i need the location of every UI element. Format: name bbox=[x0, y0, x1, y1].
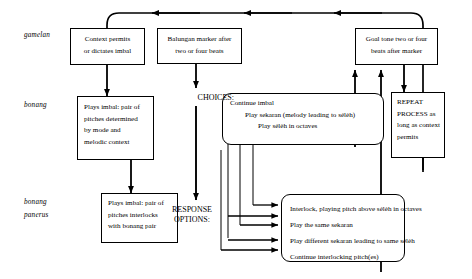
node-goal-tone: Goal tone two or four beats after marker bbox=[355, 28, 438, 65]
node-plays-imbal-bonang-line-3: by mode and bbox=[84, 125, 153, 137]
node-repeat-process-line-4: permits bbox=[397, 132, 444, 144]
node-response-options: Interlock, playing pitch above sélèh in … bbox=[281, 194, 405, 262]
node-balungan-marker-line-1: Balungan marker after bbox=[158, 34, 241, 46]
node-balungan-marker-line-2: two or four beats bbox=[158, 46, 241, 58]
node-balungan-marker: Balungan marker after two or four beats bbox=[157, 28, 242, 64]
node-repeat-process-line-3: long as context bbox=[397, 120, 444, 132]
node-plays-imbal-bonang-line-4: melodic context bbox=[84, 137, 153, 149]
node-continue-imbal-line-1: Continue imbal bbox=[223, 98, 383, 110]
node-context-permits-line-2: or dictates imbal bbox=[71, 46, 144, 58]
gamelan-imbal-flowchart: gamelan bonang bonang panerus bbox=[0, 0, 472, 279]
node-context-permits: Context permits or dictates imbal bbox=[70, 28, 145, 65]
node-repeat-process-line-1: REPEAT bbox=[397, 97, 444, 109]
node-continue-imbal-line-3: Play sélèh in octaves bbox=[223, 121, 383, 133]
label-response-options: RESPONSE OPTIONS: bbox=[150, 205, 234, 224]
node-response-option-2: Play the same sekaran bbox=[290, 217, 404, 233]
node-goal-tone-line-1: Goal tone two or four bbox=[356, 34, 437, 46]
node-response-option-3: Play different sekaran leading to same s… bbox=[290, 233, 404, 249]
node-plays-imbal-bonang-line-1: Plays imbal: pair of bbox=[84, 102, 153, 114]
label-choices: CHOICES: bbox=[158, 93, 234, 103]
node-repeat-process: REPEAT PROCESS as long as context permit… bbox=[391, 92, 445, 158]
node-plays-imbal-bonang-line-2: pitches determined bbox=[84, 114, 153, 126]
node-response-option-1: Interlock, playing pitch above sélèh in … bbox=[290, 201, 404, 217]
node-continue-imbal-line-2: Play sekaran (melody leading to sélèh) bbox=[223, 110, 383, 122]
node-goal-tone-line-2: beats after marker bbox=[356, 46, 437, 58]
node-repeat-process-line-2: PROCESS as bbox=[397, 109, 444, 121]
node-plays-imbal-bonang: Plays imbal: pair of pitches determined … bbox=[77, 96, 154, 160]
node-response-option-4: Continue interlocking pitch(es) bbox=[290, 249, 404, 265]
node-context-permits-line-1: Context permits bbox=[71, 34, 144, 46]
node-continue-imbal: Continue imbal Play sekaran (melody lead… bbox=[222, 93, 384, 145]
